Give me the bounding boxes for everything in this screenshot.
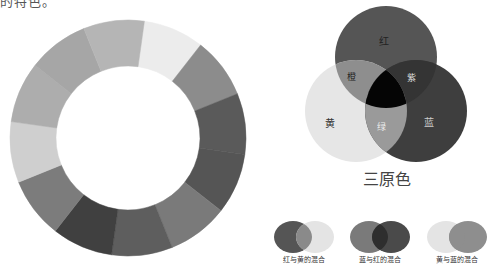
mix-example: 黄与蓝的混合 (427, 221, 487, 264)
primary-colors-venn: 红 橙 紫 黄 绿 蓝 三原色 (305, 6, 467, 189)
mix-example: 红与黄的混合 (274, 221, 334, 264)
venn-title: 三原色 (363, 170, 411, 189)
venn-label-yellow: 黄 (325, 117, 335, 129)
venn-label-orange: 橙 (347, 71, 356, 82)
mix-example: 蓝与红的混合 (350, 221, 410, 264)
mix-label: 黄与蓝的混合 (436, 255, 478, 264)
mix-label: 红与黄的混合 (283, 255, 325, 264)
venn-label-red: 红 (379, 35, 389, 47)
venn-label-purple: 紫 (407, 73, 416, 83)
color-wheel (10, 20, 246, 256)
diagram-canvas: 红 橙 紫 黄 绿 蓝 三原色 红与黄的混合蓝与红的混合黄与蓝的混合 (0, 0, 497, 266)
venn-label-green: 绿 (377, 121, 386, 132)
mix-label: 蓝与红的混合 (359, 255, 401, 264)
venn-label-blue: 蓝 (424, 117, 434, 128)
color-mix-examples: 红与黄的混合蓝与红的混合黄与蓝的混合 (274, 221, 487, 264)
